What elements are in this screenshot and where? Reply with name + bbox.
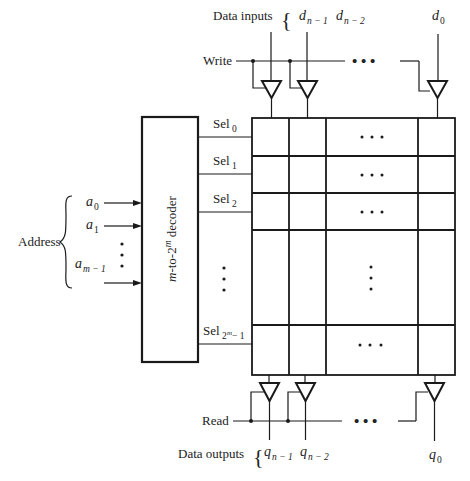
svg-text:Sel: Sel bbox=[213, 116, 230, 131]
svg-text:n − 1: n − 1 bbox=[307, 16, 328, 26]
address-label-a1: a 1 bbox=[86, 217, 99, 235]
output-label-q-n-1: q n − 1 bbox=[264, 444, 293, 462]
input-label-d-n-1: d n − 1 bbox=[299, 8, 328, 26]
write-enable-d0 bbox=[419, 61, 430, 91]
address-arrow-a0 bbox=[104, 200, 142, 206]
svg-text:d: d bbox=[299, 8, 307, 23]
address-label-am-1: a m − 1 bbox=[75, 256, 106, 274]
data-outputs-brace: { bbox=[253, 444, 264, 469]
input-buffer-d-0 bbox=[428, 81, 447, 98]
address-arrow-am-1 bbox=[104, 280, 142, 286]
input-buffer-d-n-1 bbox=[262, 81, 281, 98]
write-junction-2 bbox=[288, 59, 292, 63]
input-label-d-0: d 0 bbox=[432, 8, 445, 26]
svg-text:0: 0 bbox=[232, 124, 237, 134]
read-ellipsis: • • • bbox=[354, 413, 377, 429]
svg-text:d: d bbox=[432, 8, 440, 23]
output-label-q-n-2: q n − 2 bbox=[300, 444, 329, 462]
sel-2: Sel 2 bbox=[198, 191, 252, 212]
svg-text:n − 2: n − 2 bbox=[344, 16, 365, 26]
address-arrow-a1 bbox=[104, 223, 142, 229]
svg-text:2: 2 bbox=[232, 199, 237, 209]
svg-text:a: a bbox=[75, 256, 82, 271]
svg-text:q: q bbox=[429, 447, 436, 462]
svg-text:q: q bbox=[264, 444, 271, 459]
sel-0: Sel 0 bbox=[198, 116, 252, 137]
read-junction-2 bbox=[286, 419, 290, 423]
svg-text:1: 1 bbox=[232, 161, 237, 171]
data-outputs-label: Data outputs bbox=[178, 446, 244, 461]
address-label-a0: a 0 bbox=[86, 194, 99, 212]
svg-text:n − 1: n − 1 bbox=[272, 452, 293, 462]
svg-text:a: a bbox=[86, 194, 93, 209]
read-enable-q-n-2 bbox=[288, 392, 300, 421]
svg-text:Sel: Sel bbox=[203, 323, 220, 338]
write-label: Write bbox=[203, 53, 232, 68]
svg-text:1: 1 bbox=[94, 225, 99, 235]
address-label: Address bbox=[18, 234, 61, 249]
memory-cell-array bbox=[252, 118, 455, 375]
data-inputs-label: Data inputs bbox=[213, 8, 273, 23]
svg-text:Sel: Sel bbox=[213, 153, 230, 168]
row-ellipsis-0 bbox=[361, 136, 384, 139]
read-junction-1 bbox=[249, 419, 253, 423]
sel-last: Sel 2 m − 1 bbox=[198, 323, 252, 344]
svg-text:a: a bbox=[86, 217, 93, 232]
output-label-q-0: q 0 bbox=[429, 447, 442, 465]
address-brace bbox=[60, 196, 72, 288]
sel-vdots bbox=[222, 266, 225, 291]
svg-text:− 1: − 1 bbox=[232, 331, 245, 341]
read-enable-q0 bbox=[416, 392, 428, 421]
sel-1: Sel 1 bbox=[198, 153, 252, 174]
decoder-label: m-to-2m decoder bbox=[163, 195, 179, 282]
write-ellipsis: • • • bbox=[352, 53, 375, 69]
read-enable-q-n-1 bbox=[251, 392, 264, 421]
svg-text:d: d bbox=[336, 8, 344, 23]
row-ellipsis-2 bbox=[361, 211, 384, 214]
svg-text:m − 1: m − 1 bbox=[83, 264, 106, 274]
svg-text:Sel: Sel bbox=[213, 191, 230, 206]
write-junction-1 bbox=[251, 59, 255, 63]
input-label-d-n-2: d n − 2 bbox=[336, 8, 365, 26]
read-label: Read bbox=[202, 413, 229, 428]
row-ellipsis-1 bbox=[361, 174, 384, 177]
row-ellipsis-last bbox=[359, 344, 383, 347]
svg-text:0: 0 bbox=[437, 455, 442, 465]
data-inputs-brace: { bbox=[281, 7, 292, 32]
svg-text:0: 0 bbox=[440, 16, 445, 26]
svg-text:0: 0 bbox=[94, 202, 99, 212]
grid-vdots bbox=[370, 266, 373, 291]
svg-text:n − 2: n − 2 bbox=[308, 452, 329, 462]
memory-diagram: Data inputs { d n − 1 d n − 2 d 0 Write … bbox=[0, 0, 470, 481]
input-buffer-d-n-2 bbox=[298, 81, 317, 98]
address-vdots bbox=[120, 242, 123, 267]
svg-text:q: q bbox=[300, 444, 307, 459]
